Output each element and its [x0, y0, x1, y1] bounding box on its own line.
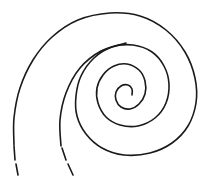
spiral-diagram — [0, 0, 208, 186]
background — [0, 0, 208, 186]
